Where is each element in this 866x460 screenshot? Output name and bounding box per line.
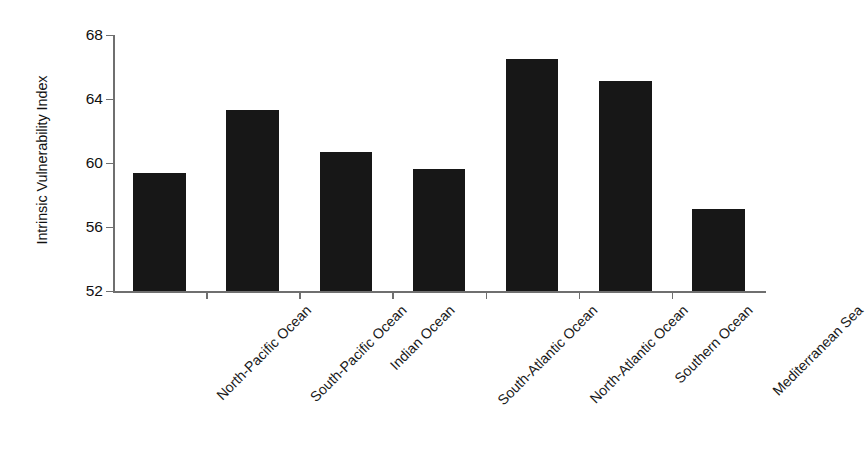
x-axis-line: [113, 291, 766, 293]
x-axis-tick-mark: [299, 292, 300, 299]
x-axis-tick-mark: [579, 292, 580, 299]
y-axis-title: Intrinsic Vulnerability Index: [34, 10, 52, 310]
x-axis-tick-mark: [392, 292, 393, 299]
y-axis-tick-mark: [106, 99, 113, 100]
x-axis-tick-mark: [486, 292, 487, 299]
y-axis-tick-mark: [106, 227, 113, 228]
bar: [506, 59, 559, 291]
y-axis-tick-mark: [106, 35, 113, 36]
bar: [133, 173, 186, 291]
y-axis-tick-label: 52: [63, 282, 103, 300]
x-axis-tick-label: Mediterranean Sea: [770, 302, 866, 399]
y-axis-tick-label: 56: [63, 218, 103, 236]
bar: [226, 110, 279, 291]
bar: [692, 209, 745, 291]
y-axis-tick-mark: [106, 163, 113, 164]
plot-area: [113, 35, 765, 291]
y-axis-tick-label: 64: [63, 90, 103, 108]
bar: [599, 81, 652, 291]
x-axis-tick-mark: [206, 292, 207, 299]
y-axis-tick-label: 68: [63, 26, 103, 44]
bar: [413, 169, 466, 291]
x-axis-tick-label: South-Atlantic Ocean: [494, 302, 600, 408]
x-axis-tick-label: North-Atlantic Ocean: [587, 302, 691, 406]
y-axis-tick-mark: [106, 291, 113, 292]
x-axis-tick-mark: [672, 292, 673, 299]
bar: [320, 152, 373, 291]
x-axis-tick-label: North-Pacific Ocean: [213, 302, 314, 403]
y-axis-tick-label: 60: [63, 154, 103, 172]
